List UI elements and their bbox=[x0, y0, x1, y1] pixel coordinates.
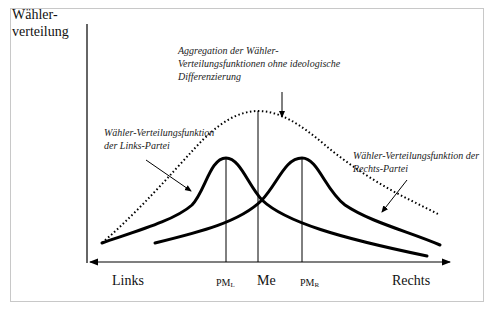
y-axis-label: Wähler- verteilung bbox=[12, 6, 69, 40]
median-tick-label: Me bbox=[257, 273, 276, 289]
left-party-annotation-line1: Wähler-Verteilungsfunktion bbox=[104, 126, 214, 139]
pm-left-main: PM bbox=[216, 277, 230, 288]
left-party-annotation: Wähler-Verteilungsfunktion der Links-Par… bbox=[104, 126, 214, 152]
aggregate-annotation-line2: Verteilungsfunktionen ohne ideologische bbox=[178, 57, 340, 70]
y-axis-label-line1: Wähler- bbox=[12, 6, 69, 23]
x-axis-right-label: Rechts bbox=[392, 273, 430, 289]
right-party-pointer-arrow bbox=[382, 180, 407, 212]
pm-right-main: PM bbox=[300, 277, 314, 288]
x-axis-left-label: Links bbox=[112, 273, 144, 289]
pm-right-tick-label: PMR bbox=[300, 277, 319, 289]
y-axis-label-line2: verteilung bbox=[12, 23, 69, 40]
left-party-annotation-line2: der Links-Partei bbox=[104, 139, 214, 152]
pm-left-tick-label: PML bbox=[216, 277, 235, 289]
aggregate-annotation-line1: Aggregation der Wähler- bbox=[178, 44, 340, 57]
pm-right-sub: R bbox=[314, 281, 319, 289]
right-party-annotation-line2: Rechts-Partei bbox=[353, 162, 479, 175]
right-party-annotation: Wähler-Verteilungsfunktion der Rechts-Pa… bbox=[353, 149, 479, 175]
pm-left-sub: L bbox=[230, 281, 234, 289]
right-party-annotation-line1: Wähler-Verteilungsfunktion der bbox=[353, 149, 479, 162]
left-party-pointer-arrow bbox=[146, 160, 191, 191]
aggregate-annotation-line3: Differenzierung bbox=[178, 70, 340, 83]
aggregate-annotation: Aggregation der Wähler- Verteilungsfunkt… bbox=[178, 44, 340, 83]
